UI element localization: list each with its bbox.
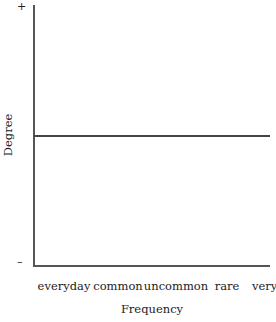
chart: + – Degree everyday common uncommon rare… (0, 0, 276, 322)
x-axis-label: Frequency (34, 302, 270, 316)
degree-line (34, 135, 270, 137)
x-axis (33, 265, 270, 267)
y-tick-plus: + (17, 1, 26, 13)
x-tick-labels: everyday common uncommon rare very rare (34, 279, 274, 295)
x-tick-very-rare: very rare (252, 279, 276, 293)
x-tick-common: common (93, 279, 143, 293)
x-tick-uncommon: uncommon (144, 279, 208, 293)
x-tick-everyday: everyday (38, 279, 91, 293)
y-tick-minus: – (17, 256, 23, 268)
x-tick-rare: rare (215, 279, 240, 293)
y-axis-label: Degree (1, 113, 15, 157)
